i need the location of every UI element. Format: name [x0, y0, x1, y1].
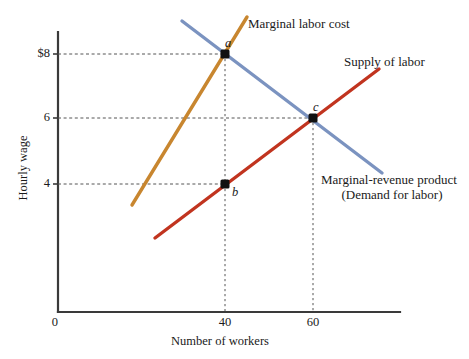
point-label-a: a [225, 36, 231, 51]
curve-label-mrp-line-1: Marginal-revenue product [321, 172, 457, 187]
y-axis-title: Hourly wage [12, 120, 34, 216]
curve-label-supply-of-labor: Supply of labor [344, 54, 425, 69]
curve-marginal-revenue-product [182, 21, 382, 173]
data-point-a [221, 50, 230, 59]
data-point-b [221, 180, 230, 189]
curve-supply-of-labor [155, 69, 379, 238]
curve-label-marginal-revenue-product: Marginal-revenue product [321, 172, 457, 187]
chart-figure: $8 6 4 0 40 60 Hourly wage Number of wor… [0, 0, 469, 359]
y-axis-title-text: Hourly wage [16, 136, 31, 201]
point-label-b: b [232, 185, 238, 200]
x-tick-label-60: 60 [299, 315, 327, 330]
x-axis-title: Number of workers [150, 334, 290, 349]
point-label-c: c [313, 100, 319, 115]
y-tick-label-8: $8 [20, 46, 50, 61]
curve-label-demand-for-labor: (Demand for labor) [321, 187, 463, 202]
data-point-c [309, 114, 318, 123]
curve-label-marginal-labor-cost: Marginal labor cost [248, 16, 350, 31]
origin-label: 0 [44, 315, 58, 330]
x-tick-label-40: 40 [211, 315, 239, 330]
